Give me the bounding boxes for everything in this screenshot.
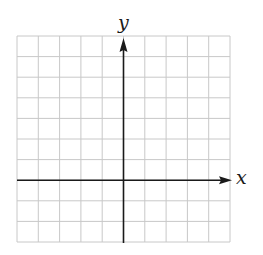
y-axis-arrow-icon [120, 38, 128, 52]
axes [17, 38, 232, 243]
coordinate-grid [0, 0, 263, 255]
x-axis-label: x [236, 168, 247, 187]
coordinate-plane: y x [0, 0, 263, 255]
y-axis-label: y [118, 13, 129, 32]
